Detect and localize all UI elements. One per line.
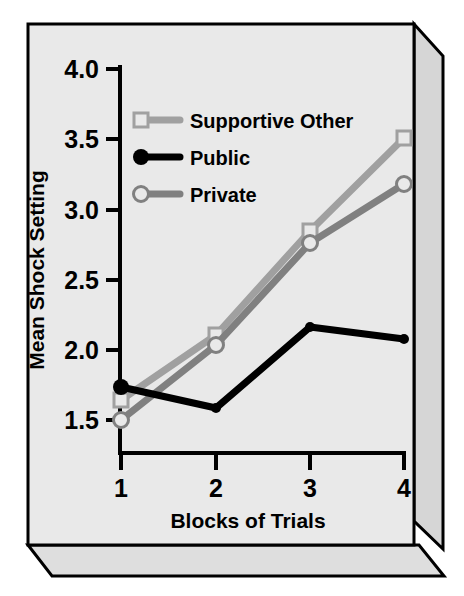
data-point-marker-filled-circle (399, 334, 409, 344)
y-axis-title: Mean Shock Setting (25, 170, 48, 370)
data-point-marker-filled-circle (305, 322, 315, 332)
x-tick-label-4: 4 (397, 474, 411, 502)
x-axis-title: Blocks of Trials (170, 509, 325, 532)
y-tick-label-4.0: 4.0 (64, 55, 99, 83)
x-tick-label-1: 1 (114, 474, 128, 502)
y-tick-label-2.5: 2.5 (64, 266, 99, 294)
legend-label-private: Private (190, 184, 257, 206)
figure-container: 4.0 3.5 3.0 2.5 2.0 1.5 1 2 3 4 Mean Sho… (0, 0, 464, 596)
y-tick-label-1.5: 1.5 (64, 406, 99, 434)
line-chart-figure: 4.0 3.5 3.0 2.5 2.0 1.5 1 2 3 4 Mean Sho… (0, 0, 464, 596)
x-tick-label-3: 3 (303, 474, 317, 502)
data-point-marker-circle (397, 177, 412, 192)
data-point-marker-square (114, 393, 128, 407)
y-tick-label-2.0: 2.0 (64, 336, 99, 364)
data-point-marker-circle (114, 413, 129, 428)
legend-label-public: Public (190, 147, 250, 169)
y-tick-label-3.5: 3.5 (64, 125, 99, 153)
x-tick-label-2: 2 (209, 474, 223, 502)
data-point-marker-filled-circle (211, 403, 221, 413)
data-point-marker-circle (303, 236, 318, 251)
legend-label-supportive-other: Supportive Other (190, 110, 354, 132)
legend-marker-square-icon (134, 113, 148, 127)
legend-marker-filled-circle-icon (133, 149, 149, 165)
data-point-marker-filled-circle (113, 379, 129, 395)
box-bottom-face (28, 545, 444, 576)
box-right-face (414, 24, 443, 549)
legend-marker-circle-icon (134, 187, 149, 202)
data-point-marker-circle (209, 338, 224, 353)
y-tick-label-3.0: 3.0 (64, 196, 99, 224)
data-point-marker-square (397, 131, 411, 145)
